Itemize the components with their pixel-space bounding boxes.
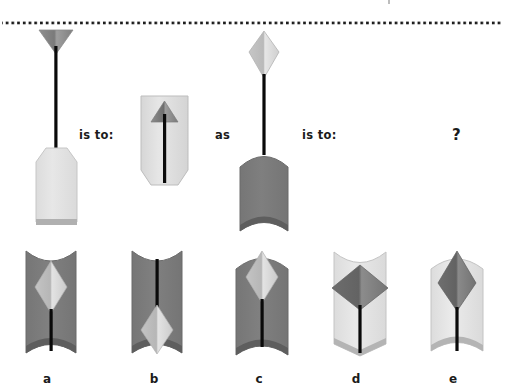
option-d[interactable]	[325, 247, 403, 363]
option-letter-e: e	[446, 373, 460, 385]
puzzle-canvas: is to: a	[0, 0, 507, 390]
question-mark-placeholder: ?	[452, 128, 461, 143]
relation-label-is-to-1: is to:	[79, 130, 114, 142]
option-letter-b: b	[147, 373, 161, 385]
relation-label-is-to-2: is to:	[302, 130, 337, 142]
option-letter-a: a	[40, 373, 54, 385]
option-e[interactable]	[421, 247, 501, 363]
option-b[interactable]	[124, 247, 198, 363]
prompt-figure-2	[134, 92, 196, 192]
stray-mark	[388, 0, 390, 4]
prompt-figure-3	[226, 26, 306, 234]
dotted-rule	[0, 11, 507, 16]
option-letter-d: d	[349, 373, 363, 385]
option-a[interactable]	[18, 247, 92, 363]
option-c[interactable]	[228, 247, 306, 363]
option-letter-c: c	[252, 373, 266, 385]
